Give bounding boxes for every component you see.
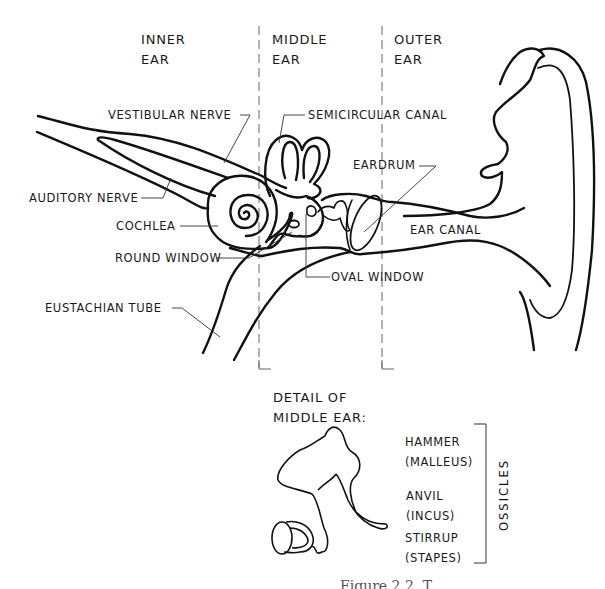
eardrum-membrane <box>344 192 388 255</box>
oval-window-opening <box>307 206 316 216</box>
anvil-incus-shape <box>278 436 328 553</box>
ossicle-junction <box>318 474 336 490</box>
label-auditory-nerve: AUDITORY NERVE <box>29 193 138 205</box>
pinna-inner-contour <box>404 49 544 216</box>
label-ear-canal: EAR CANAL <box>410 225 481 237</box>
ear-anatomy-diagram <box>0 0 605 589</box>
eustachian-tube-right <box>234 252 350 360</box>
section-dividers <box>259 26 382 368</box>
label-round-window: ROUND WINDOW <box>115 253 221 265</box>
leader-vestibular-nerve <box>224 115 250 163</box>
label-semicircular-canal: SEMICIRCULAR CANAL <box>308 110 447 122</box>
leader-semicircular-canal <box>279 115 305 143</box>
divider-foot-right <box>382 360 394 369</box>
semicircular-canal-loop-2 <box>303 146 319 182</box>
cochlea-spiral <box>231 195 268 236</box>
ossicles-detail-drawing <box>272 427 387 554</box>
round-window-opening <box>289 221 299 228</box>
ossicle-stirrup-label: STIRRUP (STAPES) <box>405 528 462 568</box>
stirrup-footplate <box>272 522 292 554</box>
semicircular-canal-loop-1 <box>282 142 298 180</box>
figure-caption-truncated: Figure 2.2. T <box>340 577 440 589</box>
middle-ear-roof <box>322 194 524 218</box>
ossicles-bracket <box>474 424 486 563</box>
ossicle-hammer-label: HAMMER (MALLEUS) <box>405 432 473 472</box>
label-oval-window: OVAL WINDOW <box>331 272 424 284</box>
pinna-outer-rim <box>540 49 594 350</box>
nerve-inner-split <box>98 137 228 178</box>
label-vestibular-nerve: VESTIBULAR NERVE <box>108 110 231 122</box>
label-cochlea: COCHLEA <box>116 221 176 233</box>
ossicles-group-label: OSSICLES <box>497 459 511 531</box>
label-eustachian-tube: EUSTACHIAN TUBE <box>45 303 162 315</box>
pinna-inner-rim <box>530 65 574 318</box>
detail-title: DETAIL OF MIDDLE EAR: <box>273 388 367 428</box>
label-eardrum: EARDRUM <box>353 160 416 172</box>
cochlea-outline <box>208 176 292 249</box>
ossicle-anvil-label: ANVIL (INCUS) <box>406 486 455 526</box>
header-middle-ear: MIDDLE EAR <box>272 30 327 70</box>
hammer-malleus-shape <box>325 427 387 529</box>
leader-oval-window <box>306 214 330 277</box>
divider-foot-left <box>259 360 271 369</box>
header-outer-ear: OUTER EAR <box>394 30 443 70</box>
header-inner-ear: INNER EAR <box>141 30 186 70</box>
pinna-lower-lobe <box>520 292 534 350</box>
